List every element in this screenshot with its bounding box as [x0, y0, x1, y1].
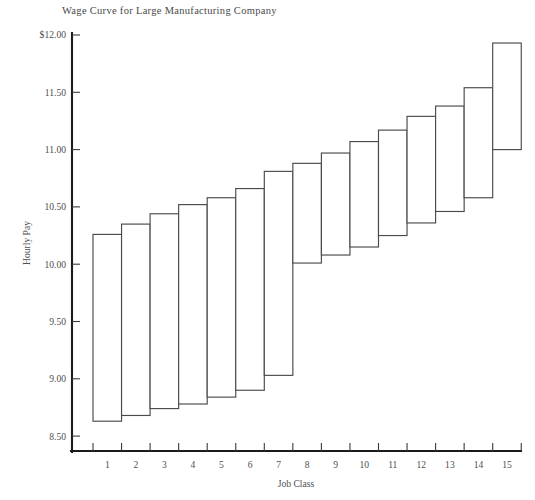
x-tick-label: 11	[388, 459, 397, 470]
wage-curve-chart: Wage Curve for Large Manufacturing Compa…	[0, 0, 535, 500]
y-tick-label: 9.50	[49, 316, 66, 327]
x-tick-label: 7	[276, 459, 281, 470]
wage-range-box	[350, 142, 379, 247]
x-tick-label: 8	[305, 459, 310, 470]
x-axis-ticks: 123456789101112131415	[93, 443, 521, 470]
wage-range-box	[179, 205, 208, 404]
wage-range-box	[321, 153, 350, 255]
y-tick-label: 11.50	[45, 87, 66, 98]
y-axis-ticks: $12.0011.5011.0010.5010.009.509.008.50	[40, 29, 80, 441]
x-tick-label: 3	[162, 459, 167, 470]
y-tick-label: 11.00	[45, 144, 66, 155]
wage-range-box	[407, 116, 436, 223]
x-tick-label: 2	[133, 459, 138, 470]
x-tick-label: 1	[105, 459, 110, 470]
y-tick-label: 9.00	[49, 373, 66, 384]
y-tick-label: 10.00	[44, 259, 66, 270]
x-axis-title: Job Class	[278, 478, 315, 489]
wage-range-box	[293, 163, 322, 263]
x-tick-label: 12	[417, 459, 427, 470]
wage-range-box	[150, 214, 179, 409]
x-tick-label: 14	[474, 459, 484, 470]
range-box-group	[93, 43, 521, 421]
wage-range-box	[236, 189, 265, 391]
wage-range-box	[264, 171, 293, 375]
wage-range-box	[464, 88, 493, 198]
x-tick-label: 5	[219, 459, 224, 470]
wage-range-box	[493, 43, 522, 150]
chart-title: Wage Curve for Large Manufacturing Compa…	[62, 5, 277, 16]
y-tick-label: 10.50	[44, 201, 66, 212]
chart-canvas: Wage Curve for Large Manufacturing Compa…	[0, 0, 535, 500]
x-tick-label: 15	[502, 459, 512, 470]
wage-range-box	[436, 106, 465, 211]
y-axis-title: Hourly Pay	[21, 221, 32, 265]
wage-range-box	[122, 224, 151, 415]
y-tick-label: $12.00	[40, 29, 67, 40]
x-tick-label: 6	[248, 459, 253, 470]
wage-range-box	[207, 198, 236, 397]
y-tick-label: 8.50	[49, 431, 66, 442]
wage-range-box	[379, 130, 408, 235]
x-tick-label: 9	[333, 459, 338, 470]
x-tick-label: 10	[359, 459, 369, 470]
x-tick-label: 13	[445, 459, 455, 470]
wage-range-box	[93, 234, 122, 421]
x-tick-label: 4	[191, 459, 196, 470]
